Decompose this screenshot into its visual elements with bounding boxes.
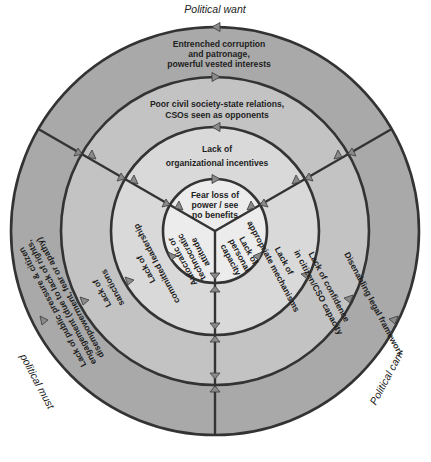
svg-text:Fear loss of: Fear loss of xyxy=(191,190,239,200)
axis-label-must: political must xyxy=(18,351,58,412)
svg-text:CSOs seen as opponents: CSOs seen as opponents xyxy=(165,110,269,120)
svg-text:Entrenched corruption: Entrenched corruption xyxy=(173,39,266,49)
svg-text:no benefits: no benefits xyxy=(192,210,238,220)
inner-want-label: Fear loss of power / see no benefits xyxy=(191,190,239,220)
svg-text:Poor civil society-state relat: Poor civil society-state relations, xyxy=(150,99,284,109)
svg-text:powerful vested interests: powerful vested interests xyxy=(167,59,271,69)
svg-text:organizational incentives: organizational incentives xyxy=(166,158,269,168)
axis-label-want: Political want xyxy=(184,3,246,15)
political-will-diagram: Political want Political can political m… xyxy=(0,0,431,462)
second-want-label: Poor civil society-state relations, CSOs… xyxy=(150,99,284,120)
svg-text:power / see: power / see xyxy=(192,200,239,210)
svg-text:and patronage,: and patronage, xyxy=(188,49,250,59)
svg-text:Lack of: Lack of xyxy=(202,144,232,154)
